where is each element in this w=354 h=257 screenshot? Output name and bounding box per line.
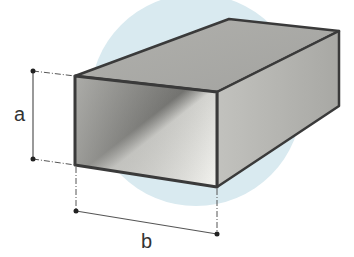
label-b: b (141, 230, 152, 252)
extension-line-a-top (33, 71, 75, 76)
dimension-point-a-top (31, 69, 36, 74)
diagram-canvas: a b (0, 0, 354, 257)
extension-line-a-bottom (33, 159, 75, 165)
inner-shade (75, 76, 217, 187)
label-a: a (14, 103, 26, 125)
dimension-point-a-bottom (31, 157, 36, 162)
rectangular-tube-diagram: a b (0, 0, 354, 257)
dimension-point-b-right (215, 232, 220, 237)
dimension-point-b-left (74, 209, 79, 214)
